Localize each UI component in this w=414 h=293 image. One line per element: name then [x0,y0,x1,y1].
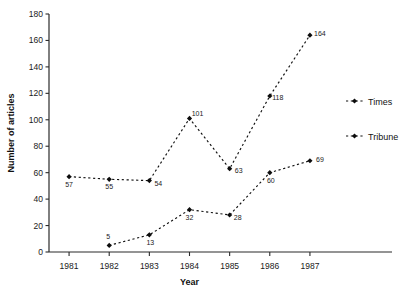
legend-label: Tribune [368,132,398,142]
data-point-marker [187,207,192,212]
y-tick-label: 0 [38,247,43,257]
series-line-times [69,35,310,180]
y-tick-label: 140 [29,62,43,72]
data-point-marker [307,33,312,38]
data-point-label: 13 [146,239,154,246]
y-axis-title: Number of articles [6,93,16,172]
data-point-marker [307,158,312,163]
data-point-marker [66,174,71,179]
data-point-label: 5 [106,233,110,240]
data-point-label: 57 [65,181,73,188]
x-tick-label: 1984 [180,261,199,271]
data-point-label: 69 [316,156,324,163]
legend-marker [352,98,357,103]
y-tick-label: 180 [29,9,43,19]
data-point-label: 118 [272,94,283,101]
x-tick-label: 1982 [100,261,119,271]
line-chart-plot: 020406080100120140160180 198119821983198… [0,0,414,293]
data-point-label: 60 [267,177,275,184]
data-point-label: 28 [234,214,242,221]
data-point-marker [107,243,112,248]
y-tick-label: 60 [34,168,44,178]
y-tick-label: 120 [29,88,43,98]
data-point-label: 54 [154,180,162,187]
data-point-label: 55 [105,183,113,190]
chart-container: 020406080100120140160180 198119821983198… [0,0,414,293]
data-point-label: 32 [186,214,194,221]
y-axis-ticks: 020406080100120140160180 [29,9,49,257]
data-point-label: 164 [314,30,326,37]
x-tick-label: 1986 [260,261,279,271]
y-tick-label: 40 [34,194,44,204]
y-tick-label: 20 [34,221,44,231]
y-tick-label: 80 [34,141,44,151]
data-point-label: 101 [192,110,204,117]
y-tick-label: 160 [29,35,43,45]
x-tick-label: 1981 [60,261,79,271]
series-line-tribune [109,161,310,246]
data-point-labels-layer: 5755541016311816451332286069 [65,30,326,246]
x-axis-title: Year [180,277,200,287]
y-tick-label: 100 [29,115,43,125]
x-axis-ticks: 1981198219831984198519861987 [60,252,320,271]
x-tick-label: 1985 [220,261,239,271]
legend-label: Times [368,97,393,107]
data-point-marker [227,212,232,217]
data-point-label: 63 [235,167,243,174]
data-point-marker [267,170,272,175]
chart-legend: TimesTribune [346,97,398,142]
x-tick-label: 1983 [140,261,159,271]
data-point-marker [147,232,152,237]
data-point-marker [107,177,112,182]
x-tick-label: 1987 [300,261,319,271]
legend-marker [352,133,357,138]
